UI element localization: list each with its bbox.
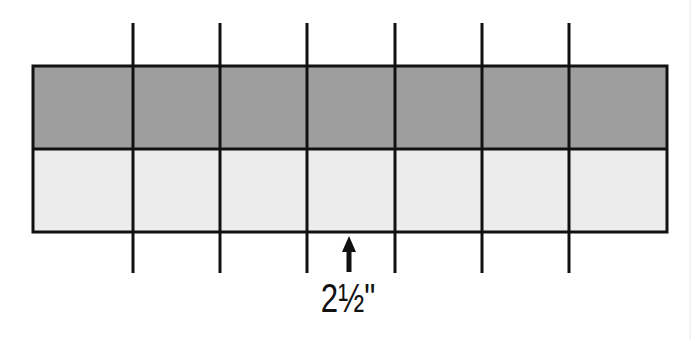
measurement-label: 2½"	[301, 276, 395, 321]
arrow-up-icon	[342, 236, 356, 252]
page-edge	[689, 0, 691, 339]
bottom-band	[33, 149, 667, 232]
top-band	[33, 66, 667, 149]
